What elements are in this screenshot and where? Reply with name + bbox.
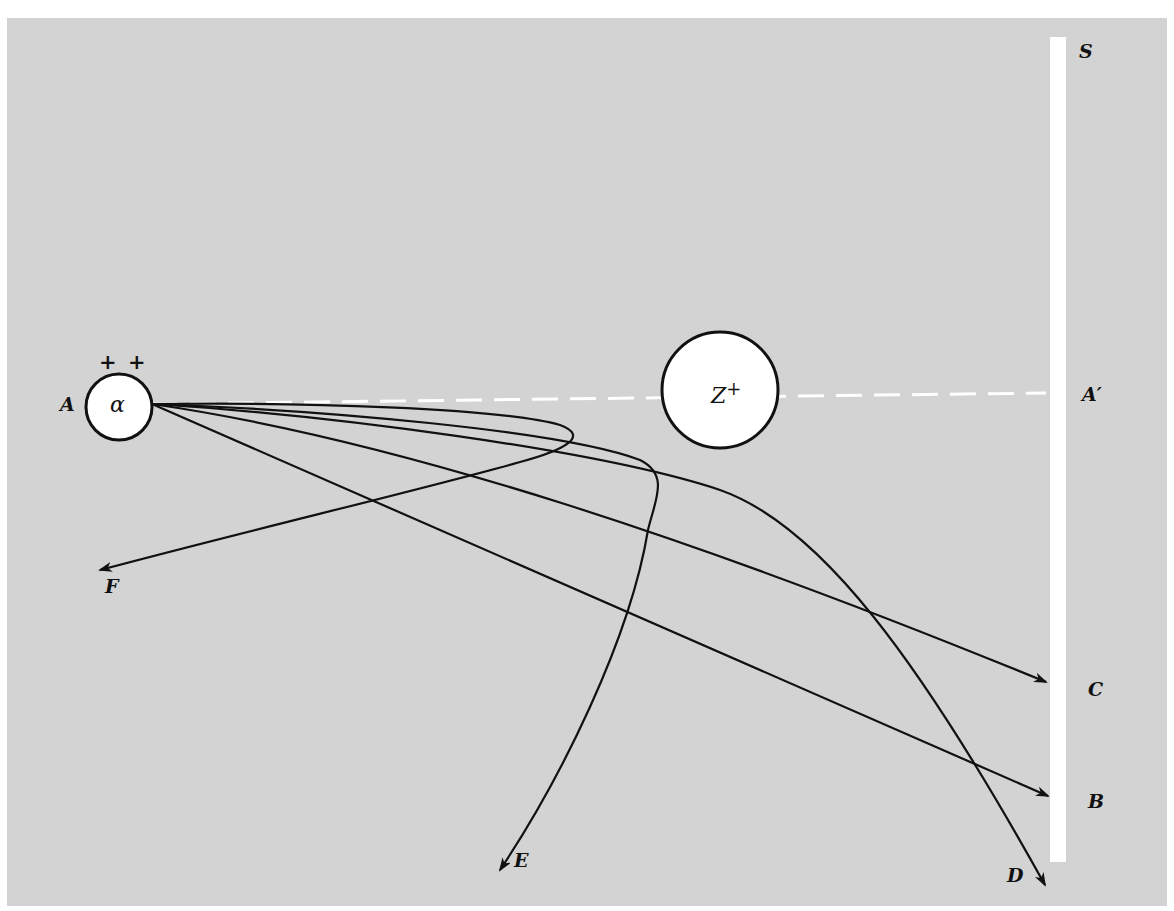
- endpoint-label-F: F: [105, 575, 119, 597]
- axis-end-label-A-prime: A′: [1082, 383, 1102, 405]
- endpoint-label-D: D: [1007, 864, 1023, 886]
- endpoint-label-B: B: [1088, 790, 1104, 812]
- alpha-charge-label: + +: [99, 349, 148, 374]
- nucleus-symbol: Z: [711, 383, 726, 408]
- nucleus-label: Z+: [711, 378, 741, 408]
- endpoint-label-C: C: [1088, 678, 1103, 700]
- alpha-symbol-label: α: [110, 392, 125, 417]
- nucleus-charge: +: [726, 378, 741, 399]
- endpoint-label-E: E: [514, 849, 528, 871]
- screen-label-S: S: [1079, 40, 1093, 62]
- source-label-A: A: [60, 393, 75, 415]
